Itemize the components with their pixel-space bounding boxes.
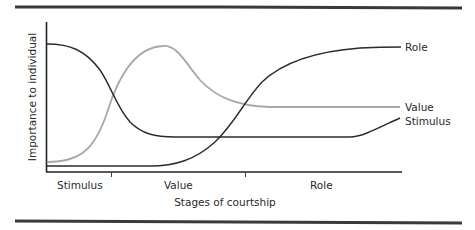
x-axis-title: Stages of courtship bbox=[174, 196, 276, 208]
stimulus-line-label: Stimulus bbox=[405, 115, 451, 127]
courtship-stages-chart: Role Value Stimulus Stimulus Value Role … bbox=[0, 0, 475, 230]
x-stage-stimulus: Stimulus bbox=[57, 179, 103, 191]
role-line-label: Role bbox=[405, 41, 428, 53]
top-rule-right bbox=[222, 7, 462, 8]
x-stage-value: Value bbox=[164, 179, 193, 191]
stimulus-line bbox=[47, 44, 400, 137]
value-line-label: Value bbox=[405, 101, 434, 113]
bottom-rule bbox=[15, 221, 462, 223]
x-stage-role: Role bbox=[310, 179, 333, 191]
y-axis-title: Importance to individual bbox=[26, 33, 38, 161]
value-line bbox=[47, 46, 400, 162]
